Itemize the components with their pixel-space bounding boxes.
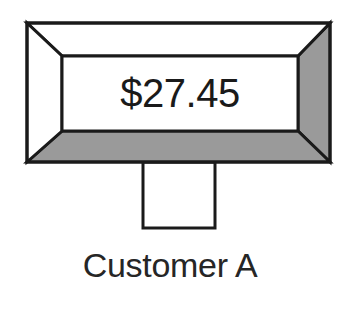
bevel-face-top (27, 23, 330, 56)
sign-post (143, 162, 215, 228)
diagram-canvas: $27.45 Customer A (0, 0, 340, 312)
amount-value: $27.45 (120, 71, 239, 115)
customer-label: Customer A (83, 246, 258, 284)
beveled-sign-diagram: $27.45 Customer A (0, 0, 340, 312)
sign-post-group (143, 162, 215, 228)
beveled-display-frame: $27.45 (27, 23, 330, 162)
bevel-face-bottom (27, 131, 330, 162)
